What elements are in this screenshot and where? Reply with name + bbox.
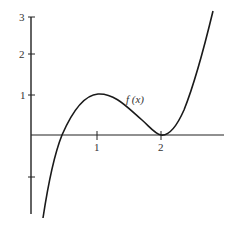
y-tick-label-2: 2 [19, 48, 25, 60]
function-graph: 3 2 1 1 2 f (x) [0, 0, 234, 228]
x-tick-label-2: 2 [158, 141, 164, 153]
y-tick-label-1: 1 [20, 89, 26, 101]
y-tick-label-3: 3 [19, 11, 25, 23]
x-tick-label-1: 1 [94, 141, 100, 153]
function-label: f (x) [126, 93, 144, 106]
function-curve [43, 11, 213, 218]
